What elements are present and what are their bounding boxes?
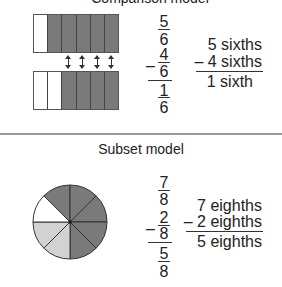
fraction-b-denominator: 6 [154, 64, 174, 80]
words-line-2: – 2 eighths [184, 214, 262, 230]
subtraction-line [148, 80, 172, 81]
bar-cell-shaded [91, 72, 105, 109]
bar-cell-shaded [77, 72, 91, 109]
subset-model-title: Subset model [98, 141, 184, 157]
words-line-3: 1 sixth [207, 74, 253, 90]
fraction-bar [158, 97, 170, 98]
bottom-fraction-bar [33, 71, 119, 110]
bar-cell-empty [34, 72, 48, 109]
fraction-a-numerator: 5 [154, 14, 174, 30]
fraction-result-denominator: 8 [154, 264, 174, 280]
bar-cell-shaded [105, 15, 118, 52]
fraction-b-numerator: 2 [154, 210, 174, 226]
comparison-arrow-icon [68, 56, 69, 68]
bar-cell-shaded [62, 72, 76, 109]
fraction-result-denominator: 6 [154, 100, 174, 116]
words-subtraction-line [186, 231, 263, 232]
top-fraction-bar [33, 14, 119, 53]
fraction-result-numerator: 5 [154, 246, 174, 262]
words-line-1: 7 eighths [197, 198, 262, 214]
comparison-model-title: Comparison model [91, 0, 209, 6]
comparison-arrow-icon [82, 56, 83, 68]
words-line-3: 5 eighths [197, 234, 262, 250]
section-divider [0, 133, 282, 135]
bar-cell-shaded [77, 15, 91, 52]
fraction-bar [158, 261, 170, 262]
bar-cell-shaded [91, 15, 105, 52]
fraction-a-denominator: 8 [154, 192, 174, 208]
bar-cell-shaded [62, 15, 76, 52]
subtraction-line [148, 242, 172, 243]
comparison-arrow-icon [111, 56, 112, 68]
bar-cell-shaded [48, 15, 62, 52]
words-line-1: 5 sixths [208, 37, 262, 53]
bar-cell-empty [48, 72, 62, 109]
words-line-2: – 4 sixths [194, 54, 262, 70]
fraction-a-numerator: 7 [154, 175, 174, 191]
words-subtraction-line [196, 71, 263, 72]
bar-cell-shaded [105, 72, 118, 109]
bar-cell-empty [34, 15, 48, 52]
fraction-b-denominator: 8 [154, 226, 174, 242]
pie-chart [30, 182, 110, 262]
fraction-bar [158, 29, 170, 30]
fraction-b-numerator: 4 [154, 47, 174, 63]
comparison-arrow-icon [97, 56, 98, 68]
